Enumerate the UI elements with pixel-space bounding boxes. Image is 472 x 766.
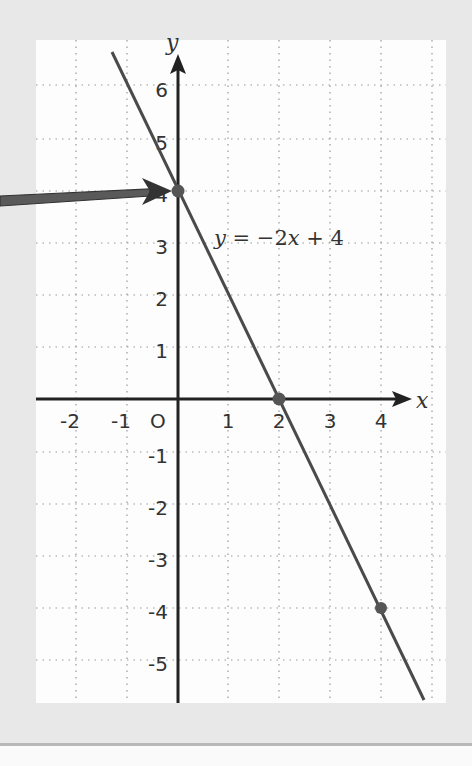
y-tick: -3 [148,548,168,572]
y-tick: -4 [148,600,168,624]
origin-label: O [150,409,166,433]
axes [36,54,412,703]
equation-label: y = −2x + 4 [213,226,344,250]
x-tick: 2 [273,409,286,433]
y-tick: -1 [148,444,168,468]
x-tick: -1 [111,409,131,433]
point-4-neg4 [375,602,387,614]
point-x-intercept [273,393,286,406]
x-tick: 3 [324,409,337,433]
coordinate-plot: x y O -2 -1 1 2 3 4 6 5 4 3 2 1 -1 -2 -3… [0,0,472,766]
y-tick: 2 [155,287,168,311]
y-axis-label: y [165,30,179,55]
pointer-arrow-icon [0,178,172,206]
x-tick: 1 [222,409,235,433]
x-axis-label: x [416,388,429,413]
y-tick-labels: 6 5 4 3 2 1 -1 -2 -3 -4 -5 [148,78,168,676]
y-tick: 6 [155,78,168,102]
x-tick: 4 [375,409,388,433]
point-y-intercept [172,185,185,198]
y-tick: -5 [148,652,168,676]
y-tick: 1 [155,339,168,363]
x-tick-labels: -2 -1 1 2 3 4 [60,409,387,433]
y-tick: 3 [155,235,168,259]
x-tick: -2 [60,409,80,433]
y-tick: -2 [148,496,168,520]
